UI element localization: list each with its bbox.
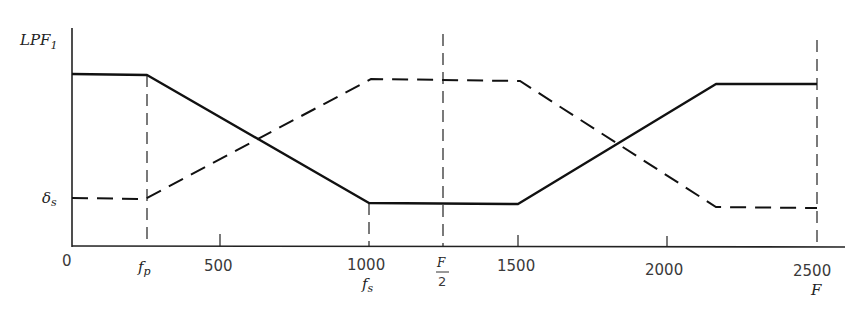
series-complementary-dashed xyxy=(72,79,817,208)
x-axis xyxy=(72,246,845,247)
tick-label-1500: 1500 xyxy=(497,257,535,275)
tick-label-0: 0 xyxy=(62,252,72,270)
tick-label-1000: 1000 xyxy=(347,256,385,274)
tick-label-500: 500 xyxy=(204,257,233,275)
tick-label-half-F-num: F xyxy=(436,256,446,270)
tick-label-fp: fp xyxy=(137,258,151,278)
x-axis-label-F: F xyxy=(810,281,822,299)
tick-label-2000: 2000 xyxy=(645,261,683,279)
tick-label-half-F-den: 2 xyxy=(438,274,446,289)
tick-label-fs: fs xyxy=(361,275,374,295)
y-axis-label: LPF1 xyxy=(19,31,57,52)
chart-canvas: LPF1 δs 0 fp 500 1000 fs F 2 1500 2000 2… xyxy=(0,0,867,314)
tick-label-2500: 2500 xyxy=(793,262,831,280)
series-lpf1-solid xyxy=(72,74,817,204)
delta-s-label: δs xyxy=(42,189,57,209)
